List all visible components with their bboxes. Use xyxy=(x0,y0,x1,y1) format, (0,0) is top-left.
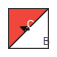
bottom-label: B xyxy=(43,37,50,47)
diagonal-split-icon[interactable]: C B xyxy=(8,8,49,49)
top-label: C xyxy=(27,20,34,30)
